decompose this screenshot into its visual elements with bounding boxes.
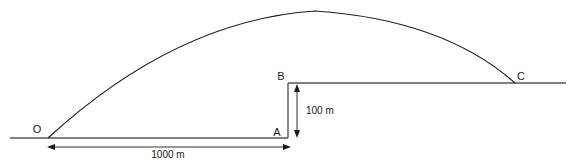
point-label-a: A xyxy=(273,126,281,138)
range-arrow-right-icon xyxy=(283,144,291,150)
height-arrow-down-icon xyxy=(294,130,300,138)
point-label-c: C xyxy=(517,70,525,82)
diagram-canvas: O A B C 1000 m 100 m xyxy=(0,0,577,165)
range-dimension-label: 1000 m xyxy=(151,149,184,160)
projectile-diagram: O A B C 1000 m 100 m xyxy=(0,0,577,165)
point-label-o: O xyxy=(33,123,42,135)
height-dimension-label: 100 m xyxy=(306,105,334,116)
point-label-b: B xyxy=(277,70,284,82)
height-arrow-up-icon xyxy=(294,84,300,92)
range-arrow-left-icon xyxy=(47,144,55,150)
